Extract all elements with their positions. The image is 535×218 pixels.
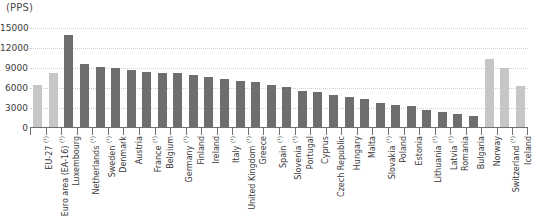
bar — [376, 103, 385, 128]
bar — [313, 92, 322, 128]
x-axis-category-label: Finland — [197, 136, 206, 165]
x-axis-category-label: Luxembourg — [72, 136, 81, 186]
y-axis-tick-labels: 03000600090001200015000 — [0, 28, 28, 128]
y-axis-tick-label: 15000 — [0, 23, 28, 33]
bar — [298, 91, 307, 128]
x-axis-category-label: Ireland — [212, 136, 221, 164]
bar — [329, 95, 338, 128]
y-axis-unit-label: (PPS) — [6, 2, 33, 13]
x-axis-category-label: Lithuania (¹) — [430, 136, 443, 183]
bar — [345, 97, 354, 128]
x-axis-tick — [46, 128, 47, 135]
x-axis-tick — [419, 128, 420, 135]
x-axis-tick — [248, 128, 249, 135]
x-axis-category-label: United Kingdom (¹) — [244, 136, 257, 210]
plot-area — [30, 28, 528, 128]
x-axis-tick — [170, 128, 171, 135]
x-axis-tick — [61, 128, 62, 135]
x-axis-category-label: Denmark — [119, 136, 128, 173]
x-axis-category-label: Portugal — [306, 136, 315, 169]
x-axis-category-label: EU-27 (¹) — [41, 136, 54, 170]
x-axis-category-label: Greece — [259, 136, 268, 164]
bar — [173, 73, 182, 128]
bar — [111, 68, 120, 128]
y-axis-tick-label: 12000 — [0, 43, 28, 53]
x-axis-category-label: Italy (¹) — [228, 136, 241, 163]
x-axis-tick — [232, 128, 233, 135]
x-axis-tick — [404, 128, 405, 135]
x-axis-tick — [450, 128, 451, 135]
x-axis-tick — [341, 128, 342, 135]
bar — [453, 114, 462, 128]
bar — [422, 110, 431, 128]
x-axis-tick — [263, 128, 264, 135]
x-axis-tick — [139, 128, 140, 135]
x-axis-category-label: Bulgaria — [477, 136, 486, 169]
x-axis-category-label: Austria — [135, 136, 144, 164]
x-axis-tick — [388, 128, 389, 135]
bar — [127, 70, 136, 128]
x-axis-tick — [326, 128, 327, 135]
bar — [204, 77, 213, 128]
bar — [282, 87, 291, 128]
x-axis-category-label: Slovenia (¹) — [290, 136, 303, 180]
bar — [500, 68, 509, 128]
x-axis-tick — [481, 128, 482, 135]
x-axis-category-label: Malta — [368, 136, 377, 158]
y-axis-tick-label: 0 — [0, 123, 28, 133]
bar — [360, 99, 369, 128]
bar — [80, 64, 89, 128]
x-axis-category-label: Sweden (¹) — [104, 136, 117, 177]
x-axis-tick — [77, 128, 78, 135]
x-axis-tick — [30, 128, 31, 135]
bar — [251, 82, 260, 128]
x-axis-tick — [357, 128, 358, 135]
bar — [220, 79, 229, 128]
x-axis-tick — [217, 128, 218, 135]
bar-series — [30, 28, 528, 128]
x-axis-tick — [310, 128, 311, 135]
x-axis-ticks — [30, 128, 528, 135]
bar — [49, 73, 58, 128]
x-axis-category-label: Spain (¹) — [275, 136, 288, 168]
x-axis-tick — [372, 128, 373, 135]
bar — [142, 72, 151, 128]
x-axis-category-label: France (¹) — [150, 136, 163, 172]
x-axis-category-labels: EU-27 (¹)Euro area (EA-16) (¹)Luxembourg… — [30, 136, 528, 218]
x-axis-category-label: Czech Republic — [337, 136, 346, 197]
y-axis-tick-label: 3000 — [0, 103, 28, 113]
bar — [158, 73, 167, 128]
bar — [64, 35, 73, 128]
y-axis-tick-label: 9000 — [0, 63, 28, 73]
bar — [236, 81, 245, 128]
x-axis-tick — [186, 128, 187, 135]
x-axis-category-label: Romania — [461, 136, 470, 171]
x-axis-tick — [497, 128, 498, 135]
x-axis-category-label: Cyprus — [321, 136, 330, 164]
x-axis-category-label: Hungary — [353, 136, 362, 170]
x-axis-category-label: Euro area (EA-16) (¹) — [57, 136, 70, 216]
x-axis-tick — [155, 128, 156, 135]
x-axis-category-label: Switzerland (¹) — [508, 136, 521, 192]
x-axis-category-label: Estonia — [415, 136, 424, 165]
x-axis-tick — [92, 128, 93, 135]
bar — [438, 112, 447, 128]
x-axis-category-label: Belgium — [166, 136, 175, 169]
bar — [267, 85, 276, 128]
x-axis-tick — [295, 128, 296, 135]
x-axis-category-label: Iceland — [524, 136, 533, 165]
x-axis-tick — [123, 128, 124, 135]
x-axis-tick — [512, 128, 513, 135]
bar — [485, 59, 494, 128]
x-axis-tick — [201, 128, 202, 135]
x-axis-tick — [435, 128, 436, 135]
x-axis-category-label: Germany (¹) — [181, 136, 194, 182]
bar-chart: (PPS) 03000600090001200015000 EU-27 (¹)E… — [0, 0, 535, 218]
bar — [33, 85, 42, 128]
bar — [189, 75, 198, 128]
x-axis-category-label: Poland — [399, 136, 408, 163]
bar — [407, 106, 416, 128]
x-axis-category-label: Norway — [493, 136, 502, 166]
y-axis-tick-label: 6000 — [0, 83, 28, 93]
bar — [391, 105, 400, 128]
